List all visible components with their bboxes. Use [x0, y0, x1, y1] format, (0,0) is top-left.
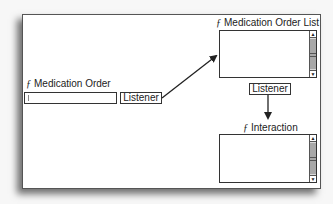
connector-arrows [0, 0, 333, 204]
arrow-to-order-list [162, 56, 216, 98]
